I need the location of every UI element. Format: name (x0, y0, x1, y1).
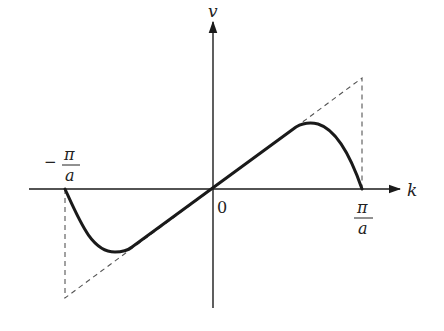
minus-sign: − (44, 153, 57, 171)
tick-label-pi-over-a: π a (354, 198, 373, 238)
v-axis-label: v (208, 1, 218, 21)
pi-numerator: π (356, 198, 368, 217)
tick-label-minus-pi-over-a: − π a (44, 145, 80, 185)
k-axis-label: k (407, 180, 417, 200)
origin-label: 0 (217, 198, 227, 217)
a-denominator: a (358, 219, 368, 238)
pi-numerator: π (63, 145, 75, 164)
velocity-dispersion-diagram: v k 0 − π a π a (0, 0, 444, 331)
a-denominator: a (65, 166, 75, 185)
